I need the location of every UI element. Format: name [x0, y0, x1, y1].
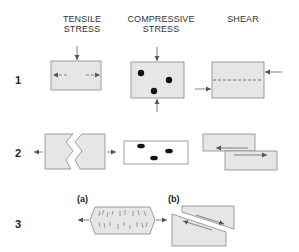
flattened-dot [150, 156, 158, 161]
shear-stress-block [195, 62, 282, 98]
particle-dot [151, 88, 157, 94]
ductile-necking [78, 207, 167, 234]
flattened-dot [165, 149, 173, 154]
compressive-stress-block [131, 47, 184, 112]
flattened-dot [137, 144, 145, 149]
shear-displacement [203, 134, 277, 170]
compressive-deformation [124, 141, 188, 164]
tensile-stress-block [51, 46, 101, 90]
particle-dot [166, 77, 172, 83]
tensile-fracture [34, 134, 116, 169]
stress-diagram [0, 0, 299, 252]
particle-dot [138, 70, 144, 76]
diagonal-shear-failure [172, 206, 234, 246]
